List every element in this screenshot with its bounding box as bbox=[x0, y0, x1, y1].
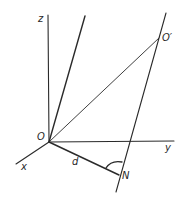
line-o-to-n-distance bbox=[49, 142, 119, 175]
y-axis-label: y bbox=[165, 143, 171, 153]
o-prime-label: O′ bbox=[162, 33, 172, 43]
diagram-canvas bbox=[0, 0, 185, 206]
slanted-line-upper bbox=[49, 16, 85, 142]
x-axis-label: x bbox=[21, 162, 27, 172]
y-axis-line bbox=[49, 141, 174, 142]
z-axis-label: z bbox=[38, 14, 43, 24]
line-o-to-o-prime bbox=[49, 38, 159, 142]
angle-arc bbox=[106, 162, 122, 168]
origin-label: O bbox=[37, 132, 45, 142]
n-label: N bbox=[122, 171, 129, 181]
z-axis-line bbox=[48, 15, 49, 142]
distance-label: d bbox=[72, 157, 78, 167]
line-through-o-prime-and-n bbox=[116, 13, 166, 192]
